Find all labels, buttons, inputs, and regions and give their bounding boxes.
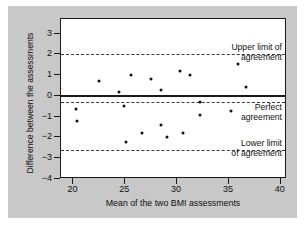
data-point	[125, 141, 128, 144]
perfect-agreement-line	[61, 95, 285, 97]
data-point	[98, 80, 101, 83]
data-point	[179, 69, 182, 72]
y-tick-label: 2	[47, 49, 52, 58]
data-point	[198, 114, 201, 117]
lower-limit-annotation: Lower limit of agreement	[231, 138, 282, 158]
y-tick-label: −2	[42, 132, 52, 141]
y-tick-label: −4	[42, 174, 52, 183]
y-axis-title: Difference between the assessments	[25, 23, 35, 183]
y-tick	[54, 95, 60, 96]
upper-limit-annotation: Upper limit of agreement	[231, 42, 282, 62]
y-tick-label: −3	[42, 153, 52, 162]
x-axis-title: Mean of the two BMI assessments	[60, 198, 286, 208]
x-tick-label: 35	[223, 185, 233, 194]
y-tick	[54, 33, 60, 34]
upper-limit-line1: Upper limit of	[231, 42, 282, 52]
x-tick-label: 25	[119, 185, 129, 194]
y-tick-label: 1	[47, 70, 52, 79]
data-point	[182, 132, 185, 135]
data-point	[244, 85, 247, 88]
data-point	[118, 90, 121, 93]
data-point	[74, 107, 77, 110]
data-point	[150, 77, 153, 80]
perfect-agreement-annotation: Perfect agreement	[241, 102, 282, 122]
bland-altman-figure: Difference between the assessments Mean …	[0, 0, 305, 225]
lower-limit-line1: Lower limit	[231, 138, 282, 148]
perfect-agreement-line1: Perfect	[241, 102, 282, 112]
y-tick	[54, 136, 60, 137]
data-point	[140, 132, 143, 135]
x-tick-label: 20	[67, 185, 77, 194]
data-point	[198, 101, 201, 104]
data-point	[130, 73, 133, 76]
y-tick-label: 3	[47, 28, 52, 37]
data-point	[237, 63, 240, 66]
x-tick-label: 40	[275, 185, 285, 194]
y-tick	[54, 53, 60, 54]
perfect-agreement-line2: agreement	[241, 112, 282, 122]
y-tick-label: 0	[47, 90, 52, 99]
data-point	[188, 73, 191, 76]
y-tick	[54, 178, 60, 179]
data-point	[159, 88, 162, 91]
data-point	[159, 124, 162, 127]
data-point	[230, 109, 233, 112]
data-point	[75, 120, 78, 123]
data-point	[123, 105, 126, 108]
lower-limit-line2: of agreement	[231, 148, 282, 158]
data-point	[165, 136, 168, 139]
y-tick-label: −1	[42, 111, 52, 120]
y-tick	[54, 74, 60, 75]
upper-limit-line2: agreement	[231, 52, 282, 62]
y-tick	[54, 116, 60, 117]
x-tick-label: 30	[171, 185, 181, 194]
y-tick	[54, 157, 60, 158]
